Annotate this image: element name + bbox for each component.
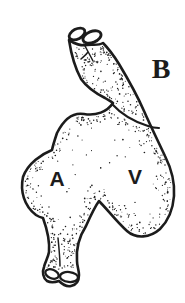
heart-illustration: A V B	[0, 0, 185, 303]
atrium-label: A	[49, 167, 64, 190]
bottom-right-vessel-opening	[60, 271, 79, 283]
figure-canvas: A V B	[0, 0, 185, 303]
page: { "figure": { "panel_label": "B", "chamb…	[0, 0, 185, 303]
ventricle-label: V	[128, 165, 142, 188]
panel-letter-label: B	[152, 53, 171, 84]
